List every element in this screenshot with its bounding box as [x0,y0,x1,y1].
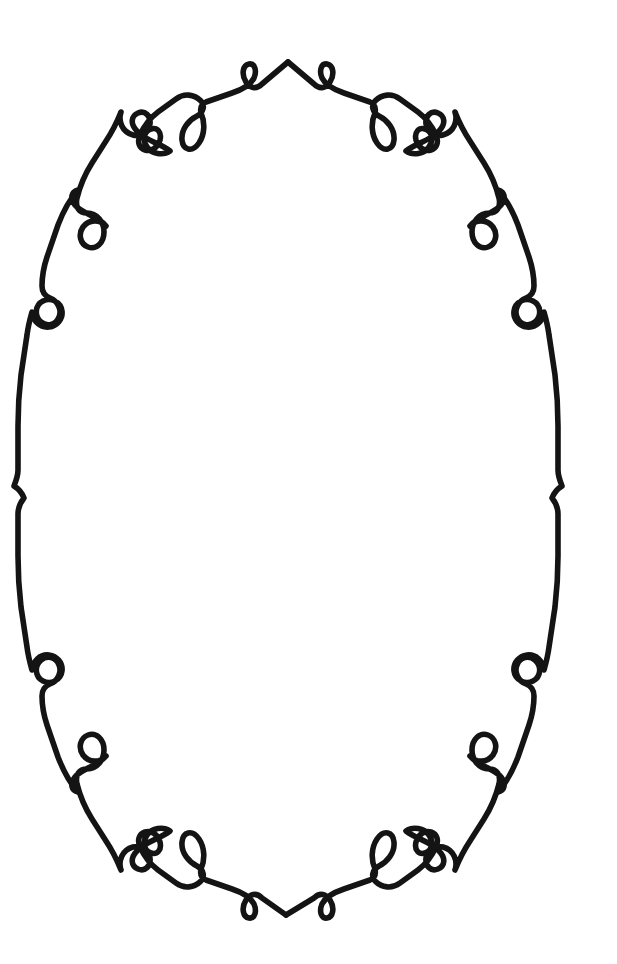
artboard: Ornamental Oval Scroll Frame [0,0,617,964]
ornamental-frame-drawing: Ornamental Oval Scroll Frame [0,0,617,964]
